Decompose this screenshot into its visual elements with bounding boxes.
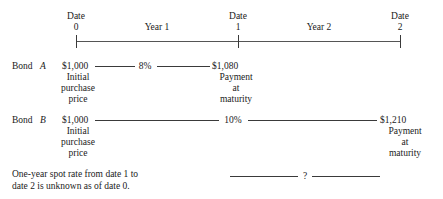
bond-b-start-caption-line-3: price (61, 148, 95, 159)
bond-b-rate: 10% (224, 115, 241, 126)
bond-a-end-caption-line-1: Payment (219, 72, 252, 83)
timeline-date-2: Date 2 (391, 11, 409, 33)
bond-a-start-caption-line-3: price (61, 94, 95, 105)
unknown-rate-rule-right (312, 176, 380, 177)
bond-a-end-caption-line-3: maturity (219, 94, 252, 105)
timeline-tick-date-0 (76, 35, 77, 48)
bond-b-rule-right (248, 120, 377, 121)
timeline-tick-date-1 (238, 35, 239, 48)
bond-b-end-caption: Payment at maturity (388, 126, 421, 160)
spot-rate-note: One-year spot rate from date 1 to date 2… (12, 169, 138, 192)
timeline-date-0: Date 0 (67, 11, 85, 33)
spot-rate-note-line-2: date 2 is unknown as of date 0. (12, 181, 138, 193)
bond-a-end-amount: $1,080 (212, 61, 238, 72)
date-0-label: Date (67, 11, 85, 22)
date-2-value: 2 (391, 22, 409, 33)
bond-a-row-label: Bond A (12, 61, 46, 72)
bond-a-row-italic: A (40, 61, 46, 71)
bond-b-end-caption-line-1: Payment (388, 126, 421, 137)
timeline-tick-date-2 (400, 35, 401, 48)
date-2-label: Date (391, 11, 409, 22)
bond-a-row-name: Bond (12, 61, 33, 71)
timeline-period-year-1: Year 1 (145, 22, 170, 33)
bond-b-start-amount: $1,000 (62, 115, 88, 126)
date-0-value: 0 (67, 22, 85, 33)
bond-b-row-name: Bond (12, 115, 33, 125)
bond-a-start-caption-line-1: Initial (61, 72, 95, 83)
bond-a-rate: 8% (139, 61, 152, 72)
bond-a-end-caption-line-2: at (219, 83, 252, 94)
bond-b-rule-left (95, 120, 219, 121)
spot-rate-note-line-1: One-year spot rate from date 1 to (12, 169, 138, 181)
date-1-label: Date (229, 11, 247, 22)
bond-a-start-amount: $1,000 (62, 61, 88, 72)
bond-b-end-caption-line-3: maturity (388, 148, 421, 159)
bond-b-end-amount: $1,210 (380, 115, 406, 126)
bond-a-start-caption-line-2: purchase (61, 83, 95, 94)
bond-b-start-caption-line-2: purchase (61, 137, 95, 148)
bond-a-rule-right (157, 66, 210, 67)
unknown-rate-marker: ? (303, 171, 307, 182)
figure-canvas: Date 0 Date 1 Date 2 Year 1 Year 2 Bond … (0, 0, 443, 199)
bond-a-rule-left (95, 66, 135, 67)
bond-b-row-label: Bond B (12, 115, 46, 126)
timeline-period-year-2: Year 2 (307, 22, 332, 33)
bond-a-start-caption: Initial purchase price (61, 72, 95, 106)
timeline-date-1: Date 1 (229, 11, 247, 33)
unknown-rate-rule-left (230, 176, 298, 177)
date-1-value: 1 (229, 22, 247, 33)
bond-b-start-caption-line-1: Initial (61, 126, 95, 137)
bond-a-end-caption: Payment at maturity (219, 72, 252, 106)
bond-b-end-caption-line-2: at (388, 137, 421, 148)
bond-b-row-italic: B (40, 115, 46, 125)
bond-b-start-caption: Initial purchase price (61, 126, 95, 160)
